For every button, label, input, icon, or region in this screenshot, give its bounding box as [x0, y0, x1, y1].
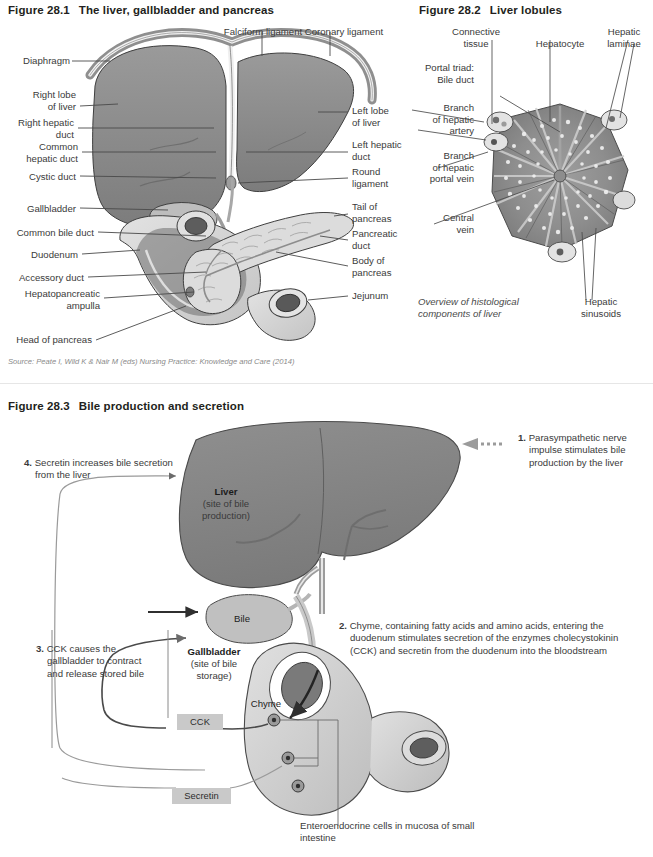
label-right-hepatic-duct: Right hepatic duct [0, 117, 74, 140]
label-head-of-pancreas: Head of pancreas [0, 334, 92, 346]
label-branch-of-hepatic-artery: Branch of hepatic artery [398, 102, 474, 137]
label-duodenum: Duodenum [0, 249, 78, 261]
label-gallbladder-sublabel: (site of bile storage) [168, 658, 260, 681]
figure-28-3-label: Bile production and secretion [79, 400, 244, 412]
step-4-number: 4. [24, 457, 32, 468]
label-portal-triad-bile-duct: Portal triad: Bile duct [398, 62, 474, 85]
step-2-number: 2. [339, 620, 347, 631]
label-right-lobe-of-liver: Right lobe of liver [0, 89, 76, 112]
label-hepatic-laminae: Hepatic laminae [596, 26, 652, 49]
step-3-text: CCK causes the gallbladder to contract a… [47, 643, 144, 679]
step-2-text: Chyme, containing fatty acids and amino … [350, 620, 619, 656]
step-4-text: Secretin increases bile secretion from t… [35, 457, 173, 480]
label-coronary-ligament: Coronary ligament [286, 26, 402, 38]
label-hepatopancreatic-ampulla: Hepatopancreatic ampulla [0, 288, 100, 311]
step-1-text: Parasympathetic nerve impulse stimulates… [529, 432, 627, 468]
tag-secretin[interactable]: Secretin [172, 788, 231, 804]
label-branch-of-hepatic-portal-vein: Branch of hepatic portal vein [398, 150, 474, 185]
figure-28-2-caption: Overview of histological components of l… [418, 296, 548, 319]
label-bile: Bile [218, 613, 266, 625]
label-chyme: Chyme [238, 698, 294, 710]
label-liver-sublabel: (site of bile production) [180, 498, 272, 521]
label-common-hepatic-duct: Common hepatic duct [0, 141, 78, 164]
step-3-number: 3. [36, 643, 44, 654]
label-body-of-pancreas: Body of pancreas [352, 255, 418, 278]
step-4: 4. Secretin increases bile secretion fro… [24, 457, 176, 482]
label-accessory-duct: Accessory duct [0, 272, 84, 284]
label-gallbladder: Gallbladder [0, 203, 76, 215]
step-3: 3. CCK causes the gallbladder to contrac… [36, 643, 148, 680]
label-connective-tissue: Connective tissue [440, 26, 512, 49]
label-hepatic-sinusoids: Hepatic sinusoids [566, 296, 636, 319]
step-2: 2. Chyme, containing fatty acids and ami… [339, 620, 647, 657]
label-liver-name: Liver [186, 486, 266, 498]
label-central-vein: Central vein [398, 212, 474, 235]
label-jejunum: Jejunum [352, 290, 418, 302]
figure-28-3-number: Figure 28.3 [8, 400, 70, 412]
figure-28-1-source: Source: Peate I, Wild K & Nair M (eds) N… [8, 357, 295, 366]
tag-cck[interactable]: CCK [177, 714, 223, 730]
label-gallbladder-name: Gallbladder [166, 646, 262, 658]
label-common-bile-duct: Common bile duct [0, 227, 94, 239]
label-enteroendocrine-cells: Enteroendocrine cells in mucosa of small… [300, 820, 480, 844]
figure-28-3-title: Figure 28.3Bile production and secretion [8, 400, 244, 412]
section-divider [0, 383, 653, 384]
step-1-number: 1. [518, 432, 526, 443]
step-1: 1. Parasympathetic nerve impulse stimula… [518, 432, 652, 469]
label-hepatocyte: Hepatocyte [522, 38, 598, 50]
label-diaphragm: Diaphragm [0, 55, 70, 67]
label-cystic-duct: Cystic duct [0, 171, 76, 183]
